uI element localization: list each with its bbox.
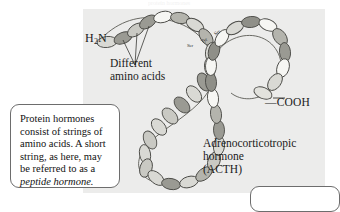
callout-line-4: string, as here, may: [20, 151, 111, 164]
molecule-name-line1: Adrenocorticotropic: [203, 137, 321, 150]
explanatory-callout-box: Protein hormones consist of strings of a…: [10, 104, 120, 188]
callout-line-1: Protein hormones: [20, 113, 111, 126]
different-amino-acids-label: Different amino acids: [110, 57, 196, 83]
different-amino-acids-line1: Different: [110, 57, 196, 70]
molecule-name-label: Adrenocorticotropic hormone (ACTH): [203, 137, 321, 176]
partial-callout-box-bottom-right: [250, 186, 340, 212]
n-terminus-label: H2N: [85, 31, 107, 46]
bead-residue: [241, 16, 261, 29]
callout-line-2: consist of strings of: [20, 126, 111, 139]
different-amino-acids-line2: amino acids: [110, 70, 196, 83]
n-terminus-subscript: 2: [94, 37, 98, 46]
callout-line-5: be referred to as a: [20, 163, 111, 176]
n-terminus-h: H: [85, 31, 94, 45]
residue-label-ser-1: Ser: [187, 43, 193, 48]
callout-line-3: amino acids. A short: [20, 138, 111, 151]
top-caption-remnant: protein hormones: [148, 0, 278, 7]
molecule-name-line3: (ACTH): [203, 163, 321, 176]
c-terminus-label: —COOH: [265, 96, 310, 108]
callout-emphasis-term: peptide hormone.: [20, 176, 94, 187]
n-terminus-n: N: [98, 31, 107, 45]
molecule-name-line2: hormone: [203, 150, 321, 163]
